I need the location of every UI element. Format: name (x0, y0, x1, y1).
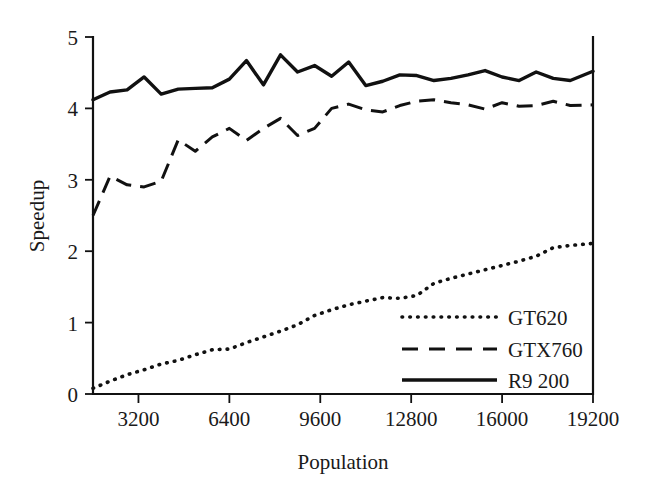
legend-label-gtx760: GTX760 (508, 338, 583, 362)
legend-label-r9-200: R9 200 (508, 369, 569, 393)
chart-figure: 320064009600128001600019200 012345 Popul… (0, 0, 651, 496)
x-tick-label: 16000 (476, 407, 529, 431)
chart-legend: GT620GTX760R9 200 (402, 306, 583, 393)
x-tick-label: 3200 (117, 407, 159, 431)
y-tick-label: 4 (68, 97, 79, 121)
x-tick-label: 9600 (299, 407, 341, 431)
y-tick-label: 3 (68, 169, 79, 193)
x-axis-title: Population (297, 450, 389, 474)
speedup-vs-population-line-chart: 320064009600128001600019200 012345 Popul… (0, 0, 651, 496)
y-axis-title: Speedup (25, 180, 49, 252)
y-axis-tick-labels: 012345 (68, 26, 79, 407)
x-tick-label: 12800 (385, 407, 438, 431)
y-tick-label: 5 (68, 26, 79, 50)
x-axis-ticks (138, 394, 593, 403)
x-tick-label: 19200 (567, 407, 620, 431)
legend-label-gt620: GT620 (508, 306, 568, 330)
y-axis-ticks (85, 37, 93, 394)
x-tick-label: 6400 (208, 407, 250, 431)
y-tick-label: 2 (68, 240, 79, 264)
x-axis-tick-labels: 320064009600128001600019200 (117, 407, 619, 431)
y-tick-label: 0 (68, 383, 79, 407)
series-line-gtx760 (93, 100, 593, 216)
series-line-r9-200 (93, 55, 593, 100)
y-tick-label: 1 (68, 312, 79, 336)
